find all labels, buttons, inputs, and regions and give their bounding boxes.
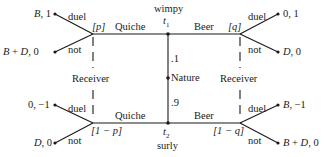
- action-duel-tl: duel: [68, 12, 86, 23]
- receiver-right-label: Receiver: [220, 74, 257, 85]
- prob-surly: .9: [171, 98, 179, 109]
- payoff-br-not: B + D, 0: [283, 138, 319, 149]
- prob-wimpy: .1: [171, 54, 179, 65]
- action-not-tl: not: [68, 45, 81, 56]
- type-t1-node: t1: [163, 16, 169, 29]
- action-quiche-bottom: Quiche: [115, 111, 145, 122]
- type-wimpy-label: wimpy: [154, 4, 183, 15]
- action-not-bl: not: [68, 136, 81, 147]
- belief-q: [q]: [228, 22, 241, 33]
- type-t2-node: t2: [163, 127, 169, 140]
- payoff-bl-not: D, 0: [34, 138, 52, 149]
- action-not-br: not: [248, 136, 261, 147]
- action-beer-bottom: Beer: [194, 111, 214, 122]
- payoff-br-duel: B, −1: [283, 100, 306, 111]
- payoff-tr-not: D, 0: [283, 47, 301, 58]
- nature-label: Nature: [171, 73, 200, 84]
- type-surly-label: surly: [157, 141, 178, 152]
- receiver-left-label: Receiver: [72, 74, 109, 85]
- action-not-tr: not: [248, 45, 261, 56]
- belief-1-minus-p: [1 − p]: [91, 126, 122, 137]
- belief-1-minus-q: [1 − q]: [213, 126, 244, 137]
- payoff-tl-not: B + D, 0: [3, 47, 39, 58]
- action-quiche-top: Quiche: [115, 22, 145, 33]
- payoff-tr-duel: 0, 1: [283, 9, 299, 20]
- payoff-tl-duel: B, 1: [34, 9, 51, 20]
- action-duel-tr: duel: [248, 12, 266, 23]
- action-duel-bl: duel: [68, 104, 86, 115]
- payoff-bl-duel: 0, −1: [28, 100, 50, 111]
- belief-p: [p]: [92, 22, 105, 33]
- action-beer-top: Beer: [194, 22, 214, 33]
- action-duel-br: duel: [248, 104, 266, 115]
